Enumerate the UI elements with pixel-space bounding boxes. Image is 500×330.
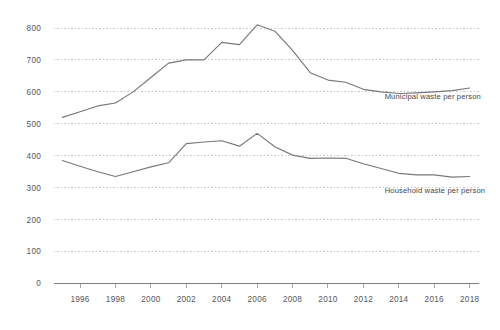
x-tick-label-2010: 2010 — [318, 295, 337, 304]
y-tick-label-200: 200 — [27, 216, 42, 225]
y-tick-label-600: 600 — [27, 88, 42, 97]
x-tick-label-2018: 2018 — [460, 295, 479, 304]
x-tick-label-1998: 1998 — [106, 295, 125, 304]
x-tick-label-2012: 2012 — [354, 295, 373, 304]
x-tick-label-2002: 2002 — [177, 295, 196, 304]
y-tick-label-0: 0 — [36, 279, 41, 288]
chart-canvas: 0100200300400500600700800 19961998200020… — [0, 0, 500, 330]
waste-per-person-line-chart: 0100200300400500600700800 19961998200020… — [0, 0, 500, 330]
series-label-municipal-waste-per-person: Municipal waste per person — [385, 92, 481, 101]
x-tick-label-2004: 2004 — [212, 295, 231, 304]
y-tick-label-100: 100 — [27, 247, 42, 256]
y-tick-label-400: 400 — [27, 152, 42, 161]
y-tick-label-700: 700 — [27, 56, 42, 65]
y-tick-label-800: 800 — [27, 24, 42, 33]
x-tick-label-2006: 2006 — [248, 295, 267, 304]
x-tick-label-1996: 1996 — [70, 295, 89, 304]
x-tick-label-2014: 2014 — [389, 295, 408, 304]
x-tick-label-2008: 2008 — [283, 295, 302, 304]
x-tick-label-2000: 2000 — [141, 295, 160, 304]
x-tick-label-2016: 2016 — [425, 295, 444, 304]
series-label-household-waste-per-person: Household waste per person — [385, 186, 486, 195]
y-tick-label-500: 500 — [27, 120, 42, 129]
y-axis-tick-labels: 0100200300400500600700800 — [27, 24, 42, 289]
y-tick-label-300: 300 — [27, 184, 42, 193]
